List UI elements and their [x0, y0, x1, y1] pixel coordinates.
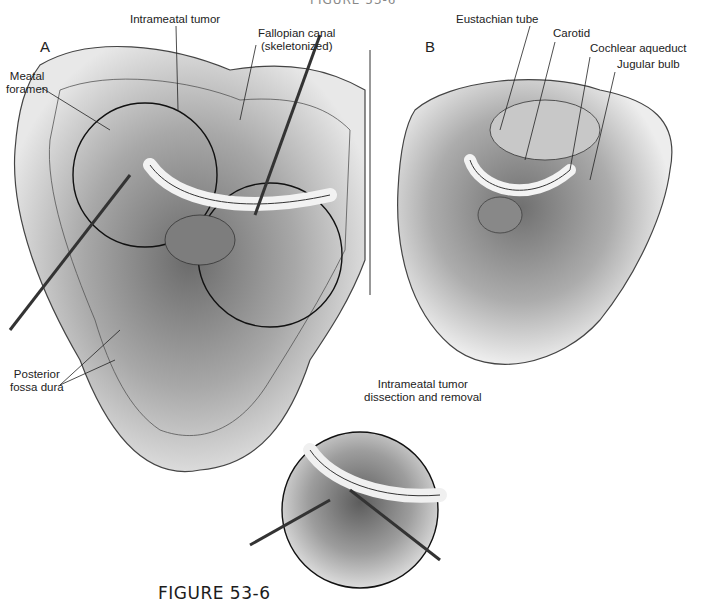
label-meatal-foramen: Meatal foramen	[6, 70, 48, 96]
label-fallopian-canal-line1: Fallopian canal	[258, 27, 335, 40]
panel-b-letter: B	[425, 38, 435, 55]
label-inset-line2: dissection and removal	[364, 391, 482, 404]
top-cut-caption: FIGURE 53-6	[310, 0, 397, 7]
label-cochlear-aqueduct: Cochlear aqueduct	[590, 42, 687, 55]
surgical-illustration-figure: FIGURE 53-6 A Intrameatal tumor Fallopia…	[0, 0, 707, 615]
label-posterior-fossa-dura: Posterior fossa dura	[10, 368, 64, 394]
label-fallopian-canal: Fallopian canal (skeletonized)	[258, 27, 335, 53]
label-inset-line1: Intrameatal tumor	[364, 378, 482, 391]
label-meatal-foramen-line2: foramen	[6, 83, 48, 96]
inset-drawing	[250, 432, 440, 588]
label-carotid: Carotid	[553, 27, 590, 40]
label-eustachian-tube: Eustachian tube	[456, 13, 538, 26]
label-inset: Intrameatal tumor dissection and removal	[364, 378, 482, 404]
label-posterior-fossa-line1: Posterior	[10, 368, 64, 381]
label-jugular-bulb: Jugular bulb	[617, 58, 680, 71]
label-posterior-fossa-line2: fossa dura	[10, 381, 64, 394]
panel-a-drawing	[10, 35, 370, 472]
anatomical-drawing	[0, 0, 707, 615]
panel-a-letter: A	[40, 38, 50, 55]
label-meatal-foramen-line1: Meatal	[6, 70, 48, 83]
label-fallopian-canal-line2: (skeletonized)	[258, 40, 335, 53]
figure-caption: FIGURE 53-6	[158, 583, 270, 603]
label-intrameatal-tumor: Intrameatal tumor	[130, 13, 220, 26]
